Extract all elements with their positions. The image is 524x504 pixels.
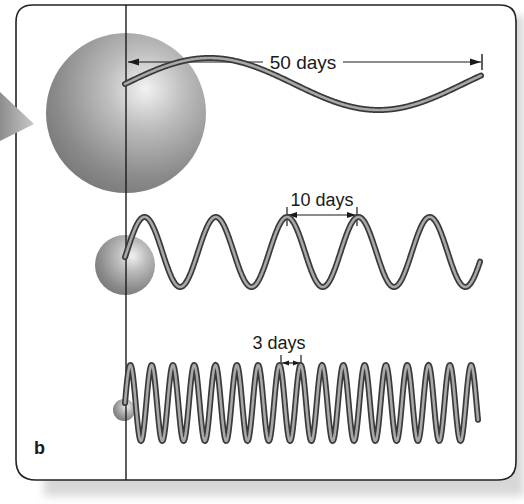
pulsation-period-diagram: 50 days 10 days 3 days b xyxy=(0,0,524,504)
panel-label: b xyxy=(34,438,45,458)
period-label-10: 10 days xyxy=(290,190,353,210)
period-label-3: 3 days xyxy=(252,333,305,353)
period-label-50: 50 days xyxy=(270,52,337,73)
medium-sphere xyxy=(95,235,155,295)
